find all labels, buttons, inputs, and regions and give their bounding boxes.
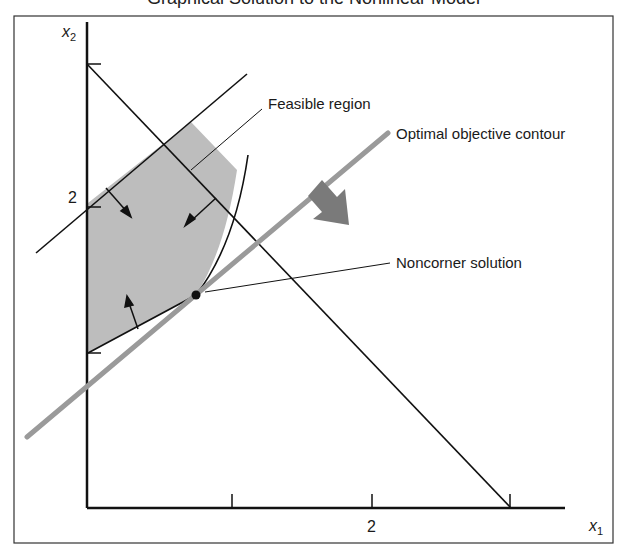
x-axis-label: x1 [588, 517, 603, 537]
feasible-region-label: Feasible region [268, 95, 371, 112]
y-tick-label: 2 [68, 189, 77, 206]
y-axis-label: x2 [61, 23, 76, 43]
x-tick-label: 2 [367, 518, 376, 535]
noncorner-solution-point [192, 291, 201, 300]
optimal-contour-label: Optimal objective contour [396, 125, 565, 142]
noncorner-solution-label: Noncorner solution [396, 254, 522, 271]
improvement-arrow-icon [308, 180, 349, 225]
diagram-canvas: Feasible region Optimal objective contou… [0, 0, 627, 555]
noncorner-leader [205, 263, 390, 292]
feasible-region [88, 122, 237, 353]
